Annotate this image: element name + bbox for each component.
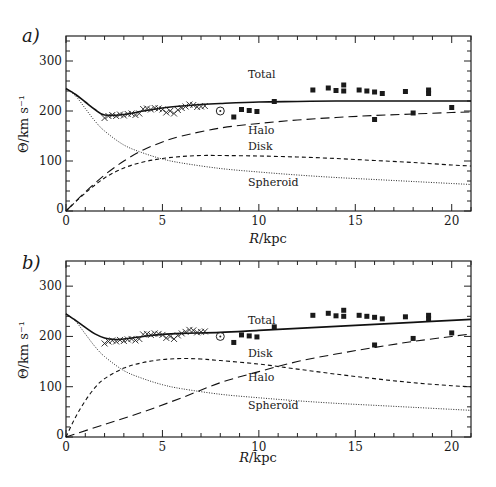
- svg-text:100: 100: [39, 154, 62, 168]
- data-square: [326, 86, 331, 91]
- data-square: [357, 313, 362, 318]
- svg-text:300: 300: [39, 54, 62, 68]
- data-square: [449, 105, 454, 110]
- panel-b-y-axis-label: Θ/km s⁻¹: [16, 321, 31, 379]
- svg-text:5: 5: [159, 214, 167, 228]
- svg-text:0: 0: [62, 440, 70, 454]
- data-square: [341, 89, 346, 94]
- rotation-curve-figure: a) 051015200100200300 Θ/km s⁻¹ R/kpc Tot…: [0, 0, 496, 487]
- data-square: [426, 91, 431, 96]
- data-square: [380, 316, 385, 321]
- panel-b-tick-labels: 051015200100200300: [39, 279, 459, 454]
- data-square: [426, 316, 431, 321]
- panel-b-x-axis-label: R/kpc: [238, 450, 277, 465]
- data-square: [272, 99, 277, 104]
- curve-spheroid: [66, 314, 471, 411]
- panel-a-y-axis-label: Θ/km s⁻¹: [16, 95, 31, 153]
- data-cross: [109, 337, 115, 343]
- panel-a-label-total: Total: [248, 68, 276, 81]
- svg-text:15: 15: [348, 440, 363, 454]
- data-square: [403, 314, 408, 319]
- svg-text:0: 0: [56, 428, 64, 442]
- data-square: [231, 115, 236, 120]
- sun-symbol-dot: [219, 335, 221, 337]
- data-square: [247, 108, 252, 113]
- panel-a-tag: a): [22, 25, 40, 46]
- sun-symbol-dot: [219, 110, 221, 112]
- data-square: [403, 89, 408, 94]
- panel-b-label-halo: Halo: [248, 371, 275, 384]
- panel-b: b) 051015200100200300 Θ/km s⁻¹ R/kpc Tot…: [16, 252, 471, 465]
- data-square: [231, 340, 236, 345]
- svg-text:20: 20: [444, 440, 459, 454]
- panel-a: a) 051015200100200300 Θ/km s⁻¹ R/kpc Tot…: [16, 25, 471, 246]
- data-square: [357, 88, 362, 93]
- svg-text:300: 300: [39, 279, 62, 293]
- svg-text:0: 0: [62, 214, 70, 228]
- panel-b-observations: [102, 308, 455, 348]
- data-square: [411, 336, 416, 341]
- panel-b-label-disk: Disk: [248, 347, 273, 360]
- data-square: [449, 330, 454, 335]
- data-square: [310, 88, 315, 93]
- data-square: [364, 314, 369, 319]
- data-square: [411, 111, 416, 116]
- data-square: [380, 91, 385, 96]
- panel-a-label-halo: Halo: [248, 124, 275, 137]
- svg-text:20: 20: [444, 214, 459, 228]
- panel-b-label-total: Total: [248, 314, 276, 327]
- data-square: [372, 315, 377, 320]
- data-square: [326, 311, 331, 316]
- panel-b-label-spheroid: Spheroid: [248, 399, 299, 412]
- data-square: [334, 313, 339, 318]
- curve-total: [66, 89, 471, 116]
- svg-text:5: 5: [159, 440, 167, 454]
- svg-text:10: 10: [251, 214, 266, 228]
- svg-text:200: 200: [39, 329, 62, 343]
- svg-text:15: 15: [348, 214, 363, 228]
- panel-a-label-spheroid: Spheroid: [248, 176, 299, 189]
- data-square: [254, 109, 259, 114]
- svg-text:200: 200: [39, 104, 62, 118]
- data-square: [341, 308, 346, 313]
- data-square: [247, 333, 252, 338]
- svg-text:0: 0: [56, 202, 64, 216]
- data-square: [341, 314, 346, 319]
- data-square: [254, 334, 259, 339]
- data-square: [364, 89, 369, 94]
- data-square: [372, 117, 377, 122]
- data-square: [372, 342, 377, 347]
- data-square: [239, 107, 244, 112]
- data-square: [239, 332, 244, 337]
- panel-a-label-disk: Disk: [248, 140, 273, 153]
- svg-text:100: 100: [39, 380, 62, 394]
- data-square: [341, 83, 346, 88]
- panel-a-x-axis-label: R/kpc: [248, 231, 287, 246]
- data-square: [310, 313, 315, 318]
- data-square: [334, 88, 339, 93]
- panel-b-tag: b): [22, 252, 41, 273]
- data-square: [372, 90, 377, 95]
